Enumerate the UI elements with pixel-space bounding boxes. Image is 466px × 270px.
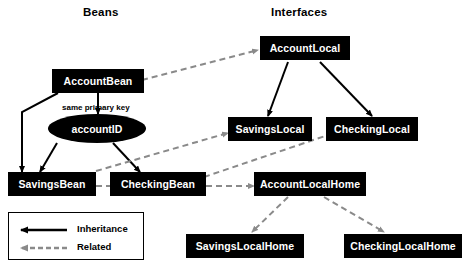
edge-account-bean-account-local — [142, 50, 258, 80]
node-checking-local[interactable]: CheckingLocal — [326, 117, 418, 141]
related-line-icon — [15, 240, 71, 252]
node-account-bean[interactable]: AccountBean — [52, 69, 144, 93]
column-title-beans: Beans — [83, 6, 119, 18]
edge-account-local-savings-local — [268, 62, 288, 116]
legend-label-related: Related — [77, 241, 111, 252]
legend: Inheritance Related — [8, 212, 144, 260]
legend-item-inheritance: Inheritance — [15, 220, 128, 236]
node-savings-local-home[interactable]: SavingsLocalHome — [186, 234, 304, 258]
node-savings-bean[interactable]: SavingsBean — [8, 172, 96, 196]
column-title-interfaces: Interfaces — [271, 6, 327, 18]
diagram-canvas: Beans Interfaces AccountBean same primar… — [0, 0, 466, 270]
legend-label-inheritance: Inheritance — [77, 223, 128, 234]
node-account-local-home[interactable]: AccountLocalHome — [254, 172, 366, 196]
node-account-local[interactable]: AccountLocal — [260, 36, 350, 60]
edge-account-id-savings-bean — [40, 143, 57, 172]
node-savings-local[interactable]: SavingsLocal — [228, 117, 312, 141]
edge-account-local-home-checking-local-home — [324, 197, 384, 232]
node-checking-bean[interactable]: CheckingBean — [110, 172, 206, 196]
inheritance-line-icon — [15, 222, 71, 234]
edge-label-same-primary-key: same primary key — [62, 103, 130, 112]
edge-account-local-checking-local — [320, 62, 372, 116]
edge-account-id-checking-bean — [113, 143, 140, 172]
legend-item-related: Related — [15, 238, 111, 254]
node-account-id[interactable]: accountID — [48, 114, 146, 143]
edge-account-local-home-savings-local-home — [252, 197, 288, 232]
node-checking-local-home[interactable]: CheckingLocalHome — [344, 234, 462, 258]
